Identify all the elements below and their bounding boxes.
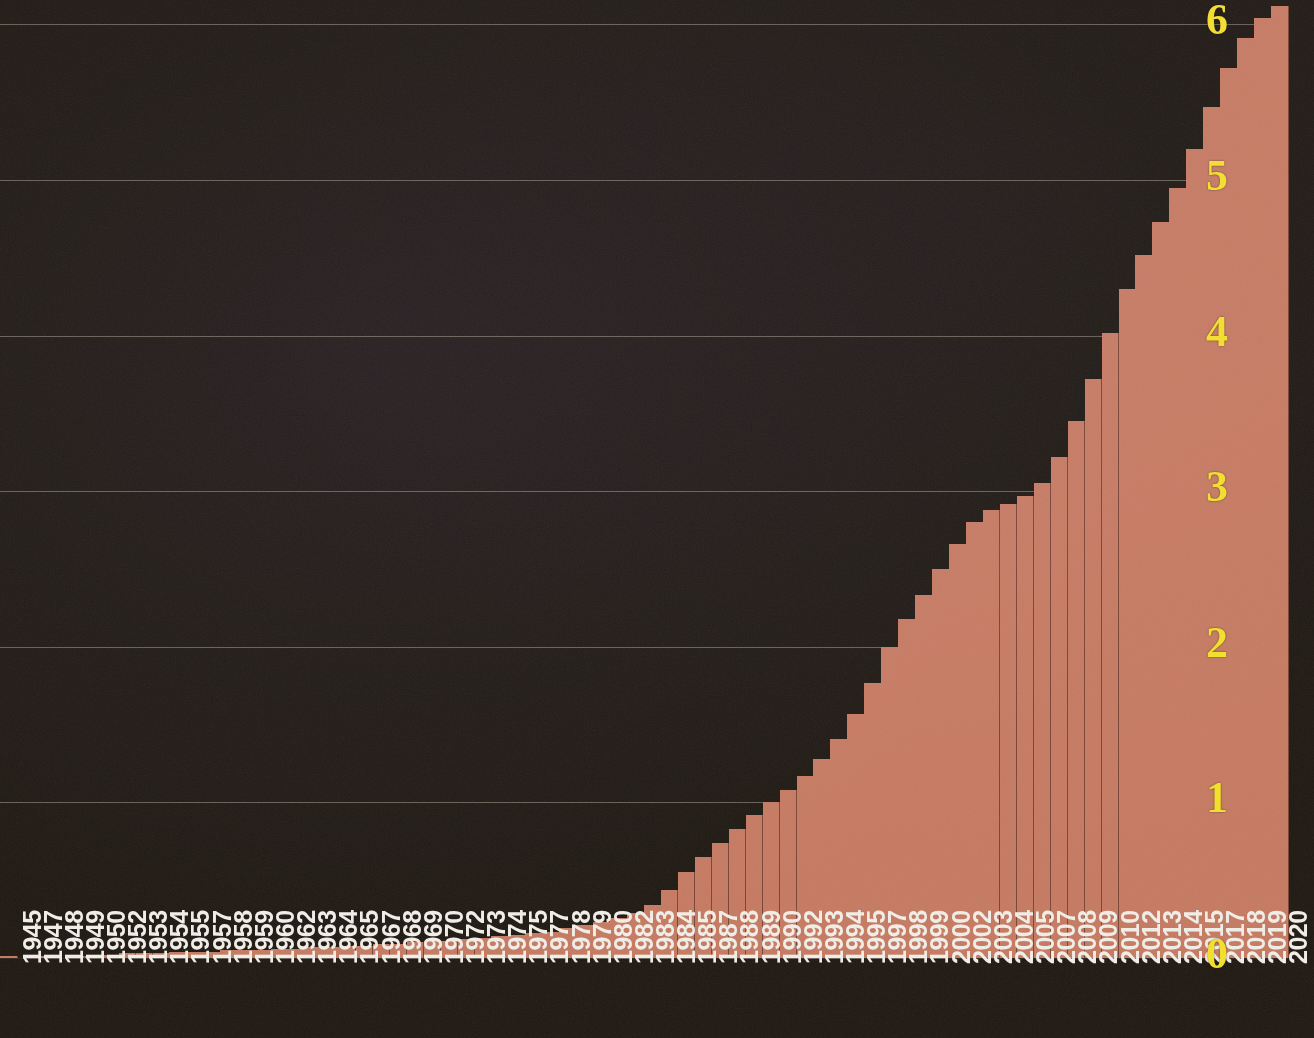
bar-2017[interactable] [1220,68,1238,958]
chart-page: 0123456 19451947194819491950195219531954… [0,0,1314,1038]
gridline-5 [0,180,1288,181]
y-tick-label-3: 3 [1206,465,1228,509]
y-tick-label-5: 5 [1206,154,1228,198]
gridline-6 [0,24,1288,25]
bar-2006[interactable] [1034,483,1052,958]
bar-2016[interactable] [1203,107,1221,958]
bar-2020[interactable] [1271,6,1289,958]
bar-2011[interactable] [1119,289,1137,958]
y-tick-label-6: 6 [1206,0,1228,42]
y-tick-label-1: 1 [1206,776,1228,820]
bar-2019[interactable] [1254,18,1272,958]
bar-1998[interactable] [898,619,916,958]
bar-2009[interactable] [1085,379,1103,958]
bar-2002[interactable] [966,522,984,958]
bar-2010[interactable] [1102,333,1120,959]
bar-2004[interactable] [1000,504,1018,958]
bar-2005[interactable] [1017,496,1035,958]
bar-2013[interactable] [1152,222,1170,958]
bar-2007[interactable] [1051,457,1069,958]
chart-plot-area: 0123456 [0,0,1314,1038]
bar-2000[interactable] [932,569,950,958]
y-tick-label-2: 2 [1206,621,1228,665]
bar-1945[interactable] [0,956,18,958]
y-tick-label-0: 0 [1206,932,1228,976]
bar-2001[interactable] [949,544,967,958]
bar-2014[interactable] [1169,188,1187,958]
bar-2008[interactable] [1068,421,1086,958]
bar-2018[interactable] [1237,38,1255,958]
x-tick-label-2020: 2020 [1286,910,1311,964]
bar-2015[interactable] [1186,149,1204,958]
gridline-4 [0,336,1288,337]
bar-2003[interactable] [983,510,1001,958]
y-tick-label-4: 4 [1206,310,1228,354]
x-axis-tick-labels: 1945194719481949195019521953195419551957… [0,962,1314,1038]
bar-2012[interactable] [1135,255,1153,958]
bar-1999[interactable] [915,595,933,958]
